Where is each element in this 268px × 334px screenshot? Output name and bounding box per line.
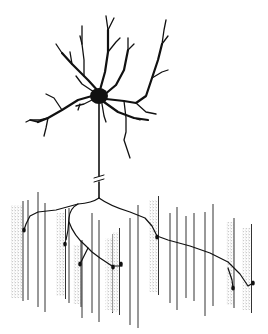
axon (94, 104, 104, 198)
end-plate (251, 280, 255, 285)
muscle-fiber-shaded (150, 200, 159, 292)
soma (90, 88, 108, 104)
end-plate (78, 261, 82, 266)
muscle-fiber-shaded (57, 213, 66, 296)
muscle-fiber-shaded (243, 228, 252, 310)
muscle-fiber-lines (28, 192, 213, 328)
muscle-fiber-shaded (11, 205, 23, 298)
muscle-fiber-shaded (106, 238, 113, 310)
end-plate (22, 227, 26, 232)
end-plate (111, 264, 115, 269)
end-plate (119, 261, 123, 266)
end-plate (231, 285, 235, 290)
neuron-diagram (0, 0, 268, 334)
end-plate (155, 234, 159, 239)
muscle-fiber-shaded (113, 232, 120, 312)
muscle-fiber-shaded (73, 245, 81, 304)
dendrites (26, 16, 168, 158)
end-plate (63, 241, 67, 246)
